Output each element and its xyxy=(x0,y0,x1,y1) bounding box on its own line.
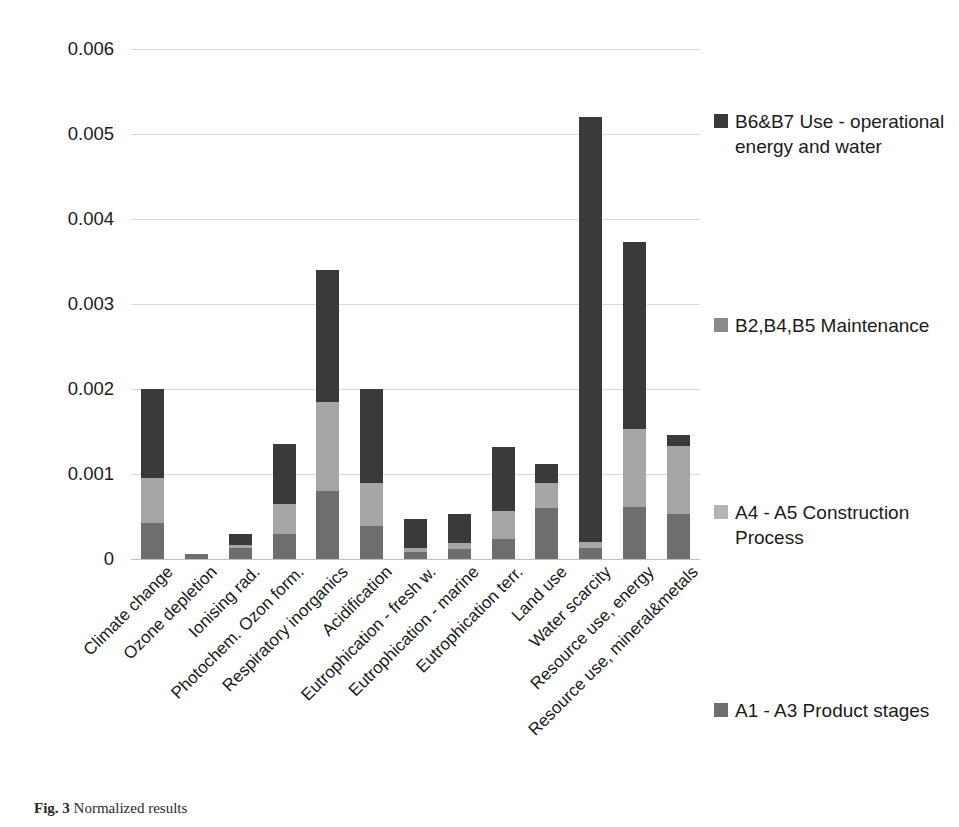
bar-stack xyxy=(535,464,558,559)
plot-area xyxy=(131,49,700,559)
bar-segment xyxy=(492,447,515,512)
y-axis-tick-label: 0.003 xyxy=(68,295,114,314)
bar-segment xyxy=(141,523,164,559)
bar-segment xyxy=(273,444,296,504)
bar-segment xyxy=(535,508,558,559)
bar-segment xyxy=(360,526,383,559)
bar-stack xyxy=(623,242,646,559)
bar-stack xyxy=(185,554,208,559)
y-axis-tick-label: 0 xyxy=(104,550,114,569)
y-axis-tick-label: 0.001 xyxy=(68,465,114,484)
bar-segment xyxy=(229,548,252,559)
bar-segment xyxy=(448,549,471,559)
legend-swatch-icon xyxy=(714,703,728,717)
bar-segment xyxy=(141,389,164,478)
legend-label: A4 - A5 Construction Process xyxy=(735,501,950,550)
bar-stack xyxy=(404,519,427,559)
caption-text: Normalized results xyxy=(74,800,188,816)
y-axis-tick-label: 0.005 xyxy=(68,125,114,144)
legend-swatch-icon xyxy=(714,318,728,332)
legend-swatch-icon xyxy=(714,505,728,519)
bar-segment xyxy=(273,534,296,560)
legend-label: A1 - A3 Product stages xyxy=(735,699,929,724)
axis-baseline xyxy=(131,559,700,560)
bar-stack xyxy=(492,447,515,559)
bar-segment xyxy=(360,483,383,526)
gridline xyxy=(131,389,700,390)
chart-legend: B6&B7 Use - operational energy and water… xyxy=(714,49,954,749)
bar-stack xyxy=(448,514,471,559)
bar-segment xyxy=(535,483,558,509)
gridline xyxy=(131,474,700,475)
bar-segment xyxy=(273,504,296,534)
legend-item[interactable]: B2,B4,B5 Maintenance xyxy=(714,314,929,339)
gridline xyxy=(131,134,700,135)
y-axis-tick-label: 0.002 xyxy=(68,380,114,399)
legend-swatch-icon xyxy=(714,114,728,128)
x-axis: Climate changeOzone depletionIonising ra… xyxy=(131,563,700,763)
bar-stack xyxy=(360,389,383,559)
legend-item[interactable]: A4 - A5 Construction Process xyxy=(714,501,950,550)
bar-segment xyxy=(141,478,164,523)
bar-stack xyxy=(273,444,296,559)
bar-segment xyxy=(316,402,339,491)
legend-item[interactable]: B6&B7 Use - operational energy and water xyxy=(714,110,950,159)
legend-label: B2,B4,B5 Maintenance xyxy=(735,314,929,339)
bar-segment xyxy=(185,554,208,559)
bar-segment xyxy=(360,389,383,483)
bar-segment xyxy=(492,539,515,559)
figure-caption: Fig. 3 Normalized results xyxy=(34,800,734,817)
y-axis-tick-label: 0.006 xyxy=(68,40,114,59)
bar-segment xyxy=(229,534,252,545)
bar-stack xyxy=(141,389,164,559)
bar-segment xyxy=(579,548,602,559)
y-axis: 00.0010.0020.0030.0040.0050.006 xyxy=(40,49,124,559)
bar-segment xyxy=(535,464,558,483)
figure-container: 00.0010.0020.0030.0040.0050.006 Climate … xyxy=(0,0,959,827)
gridline xyxy=(131,219,700,220)
caption-prefix: Fig. 3 xyxy=(34,800,70,816)
bar-segment xyxy=(492,511,515,538)
bar-segment xyxy=(623,507,646,559)
gridline xyxy=(131,49,700,50)
bar-stack xyxy=(229,534,252,559)
bar-segment xyxy=(316,270,339,402)
bar-stack xyxy=(667,435,690,559)
bar-segment xyxy=(404,519,427,548)
legend-item[interactable]: A1 - A3 Product stages xyxy=(714,699,929,724)
legend-label: B6&B7 Use - operational energy and water xyxy=(735,110,950,159)
bar-segment xyxy=(667,514,690,559)
y-axis-tick-label: 0.004 xyxy=(68,210,114,229)
bar-segment xyxy=(448,514,471,543)
bar-segment xyxy=(316,491,339,559)
bar-segment xyxy=(404,552,427,559)
bar-segment xyxy=(623,242,646,429)
bar-stack xyxy=(579,117,602,559)
bar-stack xyxy=(316,270,339,559)
gridline xyxy=(131,304,700,305)
bar-segment xyxy=(579,117,602,542)
bar-segment xyxy=(623,429,646,507)
bar-segment xyxy=(667,435,690,446)
bar-segment xyxy=(667,446,690,514)
